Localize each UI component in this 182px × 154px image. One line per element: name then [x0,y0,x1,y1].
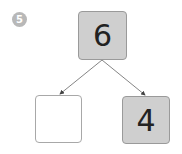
part-box-right: 4 [122,96,170,144]
whole-box: 6 [78,11,127,60]
arrow-to-right-part [102,60,145,95]
arrow-to-left-part [60,60,102,94]
part-box-left-answer[interactable] [35,95,82,143]
